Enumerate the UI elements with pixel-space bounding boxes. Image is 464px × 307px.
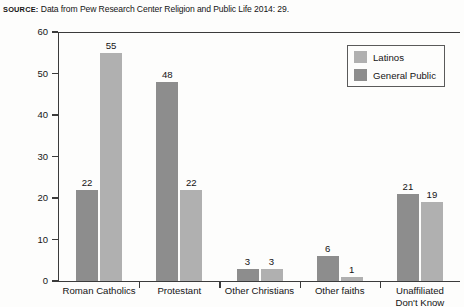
bar-group: 4822 (156, 32, 202, 281)
y-axis-label: 30 (22, 151, 48, 162)
bar-group-bars: 4822 (156, 32, 202, 281)
bar-general-public[interactable]: 6 (317, 32, 339, 281)
bar-value-label: 1 (349, 264, 354, 275)
x-axis-category-label: UnaffiliatedDon't Know (396, 285, 445, 307)
x-axis-tick (300, 281, 301, 288)
bar-value-label: 21 (403, 181, 414, 192)
y-axis-tick (52, 114, 58, 115)
legend-item-general-public: General Public (354, 69, 436, 81)
bar-group-bars: 2255 (76, 32, 122, 281)
x-axis-category-label: Other faiths (315, 285, 365, 297)
y-axis-tick (52, 31, 58, 32)
x-axis-category-line: Don't Know (396, 297, 445, 307)
bar-group: 33 (237, 32, 283, 281)
y-axis-tick (52, 156, 58, 157)
bar-latinos[interactable]: 22 (180, 32, 202, 281)
bar-value-label: 22 (82, 177, 93, 188)
bar-fill (317, 256, 339, 281)
legend-swatch-latinos (354, 51, 367, 63)
bar-value-label: 3 (245, 256, 250, 267)
y-axis-label: 10 (22, 234, 48, 245)
bar-general-public[interactable]: 48 (156, 32, 178, 281)
source-note: SOURCE: Data from Pew Research Center Re… (3, 4, 289, 15)
bar-value-label: 3 (269, 256, 274, 267)
legend-item-latinos: Latinos (354, 51, 436, 63)
bar-general-public[interactable]: 3 (237, 32, 259, 281)
legend-label-latinos: Latinos (373, 52, 404, 63)
x-axis-tick (380, 281, 381, 288)
bar-general-public[interactable]: 22 (76, 32, 98, 281)
source-label: SOURCE: (3, 5, 38, 14)
bar-fill (100, 53, 122, 281)
bar-fill (180, 190, 202, 281)
bar-value-label: 22 (186, 177, 197, 188)
bar-latinos[interactable]: 55 (100, 32, 122, 281)
bar-fill (421, 202, 443, 281)
x-axis-category-label: Protestant (157, 285, 201, 297)
y-axis-label: 50 (22, 68, 48, 79)
bar-fill (76, 190, 98, 281)
legend-swatch-general-public (354, 69, 367, 81)
bar-latinos[interactable]: 3 (261, 32, 283, 281)
y-axis-tick (52, 239, 58, 240)
bar-value-label: 19 (427, 189, 438, 200)
x-axis-category-line: Other faiths (315, 285, 365, 297)
bar-fill (397, 194, 419, 281)
bar-fill (261, 269, 283, 281)
x-axis-category-line: Roman Catholics (63, 285, 136, 297)
x-axis-category-line: Other Christians (225, 285, 294, 297)
chart-page: SOURCE: Data from Pew Research Center Re… (0, 0, 464, 307)
bar-value-label: 6 (325, 243, 330, 254)
y-axis-label: 60 (22, 26, 48, 37)
bar-value-label: 48 (162, 69, 173, 80)
y-axis-tick (52, 197, 58, 198)
y-axis-tick (52, 73, 58, 74)
x-axis-category-line: Protestant (157, 285, 201, 297)
bar-fill (341, 277, 363, 281)
x-axis-tick (219, 281, 220, 288)
y-axis-tick (52, 280, 58, 281)
y-axis-label: 0 (22, 275, 48, 286)
y-axis-label: 40 (22, 109, 48, 120)
chart-legend: Latinos General Public (347, 45, 445, 87)
y-axis-label: 20 (22, 192, 48, 203)
bar-fill (237, 269, 259, 281)
bar-group-bars: 33 (237, 32, 283, 281)
x-axis-line (58, 281, 460, 282)
bar-group: 2255 (76, 32, 122, 281)
x-axis-category-line: Unaffiliated (396, 285, 445, 297)
bar-value-label: 55 (106, 40, 117, 51)
x-axis-category-label: Other Christians (225, 285, 294, 297)
source-text: Data from Pew Research Center Religion a… (38, 4, 289, 14)
bar-fill (156, 82, 178, 281)
x-axis-category-label: Roman Catholics (63, 285, 136, 297)
legend-label-general-public: General Public (373, 70, 436, 81)
x-axis-tick (139, 281, 140, 288)
